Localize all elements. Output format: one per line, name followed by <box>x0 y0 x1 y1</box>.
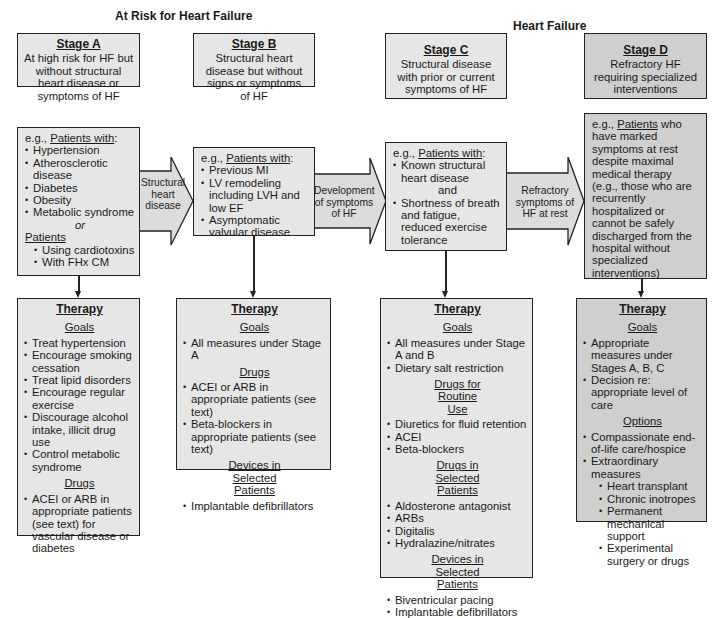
stage-d-therapy-box: Therapy Goals Appropriate measures under… <box>576 298 707 522</box>
arrow-label-development: Development of symptoms of HF <box>314 185 374 220</box>
list-item: LV remodeling including LVH and low EF <box>201 177 310 214</box>
therapy-title: Therapy <box>583 303 702 315</box>
devices-list: Biventricular pacing Implantable defibri… <box>387 594 528 618</box>
stage-d-patients-box: e.g., Patients who have marked symptoms … <box>584 113 707 279</box>
section-heading: Goals <box>583 321 702 333</box>
stage-c-therapy-box: Therapy Goals All measures under Stage A… <box>380 298 533 578</box>
arrow-label-refractory: Refractory symptoms of HF at rest <box>512 185 578 220</box>
list-item: Appropriate measures under Stages A, B, … <box>583 337 702 374</box>
section-heading: Devices in Selected Patients <box>387 553 528 590</box>
drugs-list: ACEI or ARB in appropriate patients (see… <box>24 493 135 555</box>
list-item: Chronic inotropes <box>599 493 702 505</box>
stage-d-patients-lead: e.g., Patients who have marked symptoms … <box>592 118 700 279</box>
list-item: Beta-blockers in appropriate patients (s… <box>183 418 326 455</box>
list-item: Compassionate end-of-life care/hospice <box>583 431 702 456</box>
list-item: ACEI or ARB in appropriate patients (see… <box>183 381 326 418</box>
arrow-label-structural: Structural heart disease <box>140 177 186 212</box>
list-item: Obesity <box>25 194 135 206</box>
goals-list: All measures under Stage A and B Dietary… <box>387 337 528 374</box>
list-item: Experimental surgery or drugs <box>599 542 702 567</box>
stage-b-box: Stage B Structural heart disease but wit… <box>193 33 315 87</box>
stage-d-box: Stage D Refractory HF requiring speciali… <box>584 33 707 99</box>
section-heading: Goals <box>183 321 326 333</box>
connector-and: and <box>393 184 502 196</box>
section-heading: Drugs <box>24 477 135 489</box>
stage-a-therapy-box: Therapy Goals Treat hypertension Encoura… <box>17 298 140 536</box>
connector-line-a <box>78 276 80 292</box>
list-item: Previous MI <box>201 164 310 176</box>
stage-b-patients-lead: e.g., Patients with: <box>201 152 310 164</box>
list-item: Hydralazine/nitrates <box>387 537 528 549</box>
list-item: All measures under Stage A and B <box>387 337 528 362</box>
list-item: Diuretics for fluid retention <box>387 418 528 430</box>
therapy-title: Therapy <box>24 303 135 315</box>
stage-c-box: Stage C Structural disease with prior or… <box>385 33 507 99</box>
section-heading: Drugs <box>183 366 326 378</box>
list-item: Using cardiotoxins <box>34 244 135 256</box>
list-item: Heart transplant <box>599 480 702 492</box>
stage-a-patients-lead: e.g., Patients with: <box>25 132 135 144</box>
therapy-title: Therapy <box>183 303 326 315</box>
connector-line-b <box>253 236 255 292</box>
section-heading: Drugs in Selected Patients <box>387 459 528 496</box>
list-item: Shortness of breath and fatigue, reduced… <box>393 197 502 247</box>
stage-a-title: Stage A <box>18 38 139 50</box>
list-item: ARBs <box>387 512 528 524</box>
stage-b-patients-box: e.g., Patients with: Previous MI LV remo… <box>193 147 315 236</box>
stage-c-title: Stage C <box>386 44 506 56</box>
list-item: ACEI <box>387 431 528 443</box>
routine-drugs-list: Diuretics for fluid retention ACEI Beta-… <box>387 418 528 455</box>
stage-b-therapy-box: Therapy Goals All measures under Stage A… <box>176 298 331 470</box>
list-item: Decision re: appropriate level of care <box>583 374 702 411</box>
list-item: Control metabolic syndrome <box>24 448 135 473</box>
list-item: With FHx CM <box>34 256 135 268</box>
list-item: Biventricular pacing <box>387 594 528 606</box>
stage-b-patients-list: Previous MI LV remodeling including LVH … <box>201 164 310 238</box>
stage-d-title: Stage D <box>585 44 706 56</box>
list-item: Digitalis <box>387 525 528 537</box>
stage-a-patients-box: e.g., Patients with: Hypertension Athero… <box>17 127 140 276</box>
devices-list: Implantable defibrillators <box>183 500 326 512</box>
list-item: Atherosclerotic disease <box>25 157 135 182</box>
list-item: ACEI or ARB in appropriate patients (see… <box>24 493 135 555</box>
list-item: Encourage regular exercise <box>24 386 135 411</box>
list-item: Beta-blockers <box>387 443 528 455</box>
extraordinary-measures-list: Heart transplant Chronic inotropes Perma… <box>583 480 702 567</box>
list-item: Aldosterone antagonist <box>387 500 528 512</box>
arrowhead-a <box>75 291 81 298</box>
list-item: Extraordinary measures <box>583 455 702 480</box>
therapy-title: Therapy <box>387 303 528 315</box>
stage-b-desc: Structural heart disease but without sig… <box>194 52 314 102</box>
list-item: Dietary salt restriction <box>387 362 528 374</box>
stage-a-desc: At high risk for HF but without structur… <box>18 52 139 102</box>
header-at-risk: At Risk for Heart Failure <box>115 9 252 23</box>
goals-list: Appropriate measures under Stages A, B, … <box>583 337 702 411</box>
list-item: Treat hypertension <box>24 337 135 349</box>
arrowhead-b <box>250 291 256 298</box>
stage-c-desc: Structural disease with prior or current… <box>386 58 506 95</box>
section-heading: Goals <box>387 321 528 333</box>
section-heading: Options <box>583 415 702 427</box>
list-item: Treat lipid disorders <box>24 374 135 386</box>
list-item: Discourage alcohol intake, illicit drug … <box>24 411 135 448</box>
list-item: Metabolic syndrome <box>25 206 135 218</box>
patients-group2-title: Patients <box>25 231 135 243</box>
stage-b-title: Stage B <box>194 38 314 50</box>
selected-drugs-list: Aldosterone antagonist ARBs Digitalis Hy… <box>387 500 528 550</box>
goals-list: Treat hypertension Encourage smoking ces… <box>24 337 135 473</box>
list-item: Encourage smoking cessation <box>24 349 135 374</box>
stage-a-box: Stage A At high risk for HF but without … <box>17 33 140 87</box>
drugs-list: ACEI or ARB in appropriate patients (see… <box>183 381 326 455</box>
goals-list: All measures under Stage A <box>183 337 326 362</box>
options-list: Compassionate end-of-life care/hospice E… <box>583 431 702 481</box>
list-item: Hypertension <box>25 144 135 156</box>
connector-line-c <box>445 251 447 292</box>
list-item: All measures under Stage A <box>183 337 326 362</box>
section-heading: Goals <box>24 321 135 333</box>
section-heading: Devices in Selected Patients <box>183 459 326 496</box>
header-heart-failure: Heart Failure <box>513 19 586 33</box>
list-item: Implantable defibrillators <box>183 500 326 512</box>
stage-d-desc: Refractory HF requiring specialized inte… <box>585 58 706 95</box>
stage-c-patients-lead: e.g., Patients with: <box>393 147 502 159</box>
arrowhead-d <box>638 291 644 298</box>
